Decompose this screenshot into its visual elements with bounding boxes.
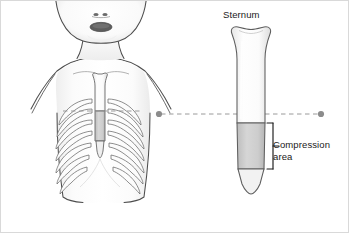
torso-sternum-upper	[93, 73, 108, 111]
illustration-canvas	[1, 1, 349, 233]
right-arm-edge	[147, 74, 170, 113]
compression-area-label: Compression area	[273, 139, 330, 162]
sternum-detail-panel	[231, 27, 279, 194]
cpr-compression-diagram: Sternum Compression area	[0, 0, 349, 233]
connector-dot-left	[156, 111, 162, 117]
sternum-manubrium-body	[231, 27, 270, 123]
torso-panel	[31, 1, 171, 203]
torso-sternum-compression	[95, 111, 105, 141]
connector-dot-right	[318, 111, 324, 117]
mouth-icon	[90, 22, 112, 31]
sternum-compression-area	[237, 123, 265, 169]
left-arm-edge	[32, 74, 55, 113]
sternum-label: Sternum	[223, 9, 260, 21]
sternum-xiphoid	[238, 169, 264, 194]
